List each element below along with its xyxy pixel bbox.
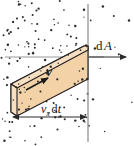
particle-dot bbox=[54, 24, 56, 26]
particle-dot bbox=[30, 98, 32, 100]
particle-dot bbox=[12, 21, 14, 23]
particle-dot bbox=[63, 9, 65, 11]
particle-dot bbox=[90, 20, 92, 22]
particle-dot bbox=[8, 62, 10, 64]
particle-dot bbox=[75, 37, 77, 39]
particle-dot bbox=[84, 121, 85, 122]
particle-dot bbox=[104, 131, 106, 133]
particle-dot bbox=[40, 136, 42, 138]
particle-dot bbox=[35, 9, 37, 11]
particle-dot bbox=[86, 78, 89, 81]
particle-dot bbox=[79, 70, 80, 71]
particle-dot bbox=[13, 99, 14, 100]
particle-dot bbox=[102, 5, 104, 7]
particle-dot bbox=[128, 19, 130, 21]
particle-dot bbox=[38, 38, 40, 40]
particle-dot bbox=[77, 81, 78, 82]
particle-dot bbox=[18, 44, 20, 46]
particle-dot bbox=[10, 31, 12, 33]
particle-dot bbox=[9, 121, 11, 123]
particle-dot bbox=[83, 16, 84, 17]
particle-dot bbox=[28, 46, 29, 47]
particle-dot bbox=[114, 47, 115, 48]
particle-dot bbox=[24, 91, 25, 92]
particle-dot bbox=[80, 49, 82, 51]
particle-dot bbox=[7, 29, 9, 31]
particle-dot bbox=[22, 16, 24, 18]
particle-dot bbox=[27, 108, 29, 110]
particle-dot bbox=[24, 140, 26, 142]
particle-dot bbox=[83, 99, 85, 101]
particle-dot bbox=[100, 68, 101, 69]
particle-dot bbox=[52, 47, 54, 49]
particle-dot bbox=[5, 49, 7, 51]
particle-dot bbox=[56, 128, 58, 130]
particle-dot bbox=[59, 49, 61, 51]
particle-dot bbox=[113, 15, 115, 17]
particle-dot bbox=[74, 83, 76, 85]
particle-dot bbox=[3, 78, 5, 80]
length-d: d bbox=[51, 102, 57, 116]
particle-dot bbox=[24, 46, 25, 47]
particle-dot bbox=[74, 25, 76, 27]
particle-dot bbox=[19, 89, 20, 90]
particle-dot bbox=[19, 57, 21, 59]
particle-dot bbox=[18, 1, 20, 3]
particle-dot bbox=[15, 86, 17, 88]
particle-dot bbox=[32, 52, 33, 53]
particle-dot bbox=[83, 9, 85, 11]
length-label: vxdt bbox=[41, 102, 62, 118]
particle-dot bbox=[2, 118, 3, 119]
particle-dot bbox=[10, 50, 12, 52]
particle-dot bbox=[59, 0, 61, 2]
particle-dot bbox=[26, 41, 28, 43]
particle-dot bbox=[37, 8, 39, 10]
particle-dot bbox=[16, 17, 18, 19]
particle-dot bbox=[29, 126, 30, 127]
velocity-label: v bbox=[46, 64, 52, 79]
particle-dot bbox=[57, 63, 58, 64]
particle-dot bbox=[57, 22, 59, 24]
particle-dot bbox=[3, 34, 5, 36]
particle-dot bbox=[17, 27, 19, 29]
particle-dot bbox=[50, 29, 52, 31]
particle-dot bbox=[40, 70, 41, 71]
particle-dot bbox=[66, 33, 68, 35]
particle-dot bbox=[35, 30, 37, 32]
particle-dot bbox=[36, 23, 38, 25]
area-element-symbol: A bbox=[103, 38, 112, 53]
particle-dot bbox=[31, 2, 33, 4]
particle-dot bbox=[35, 143, 37, 145]
particle-dot bbox=[86, 45, 88, 47]
particle-dot bbox=[19, 91, 21, 93]
particle-dot bbox=[24, 87, 25, 88]
flux-diagram-canvas: dA v vxdt bbox=[0, 0, 134, 146]
particle-dot bbox=[37, 80, 39, 82]
particle-dot bbox=[6, 84, 8, 86]
particle-dot bbox=[32, 14, 34, 16]
particle-dot bbox=[131, 101, 133, 103]
particle-dot bbox=[39, 91, 41, 93]
particle-dot bbox=[70, 36, 72, 38]
particle-dot bbox=[78, 126, 80, 128]
particle-dot bbox=[67, 54, 69, 56]
particle-dot bbox=[28, 106, 29, 107]
particle-dot bbox=[63, 107, 65, 109]
particle-dot bbox=[28, 53, 30, 55]
particle-dot bbox=[18, 3, 20, 5]
particle-dot bbox=[74, 119, 76, 121]
area-element-label: dA bbox=[96, 38, 112, 53]
particle-dot bbox=[25, 108, 27, 110]
particle-dot bbox=[118, 53, 120, 55]
particle-dot bbox=[92, 98, 94, 100]
particle-dot bbox=[31, 23, 32, 24]
particle-dot bbox=[7, 44, 9, 46]
particle-dot bbox=[6, 112, 8, 114]
particle-dot bbox=[10, 137, 12, 139]
particle-dot bbox=[9, 58, 11, 60]
particle-dot bbox=[4, 120, 5, 121]
particle-dot bbox=[60, 51, 62, 53]
particle-dot bbox=[34, 43, 36, 45]
particle-dot bbox=[81, 78, 84, 81]
particle-dot bbox=[85, 114, 87, 116]
